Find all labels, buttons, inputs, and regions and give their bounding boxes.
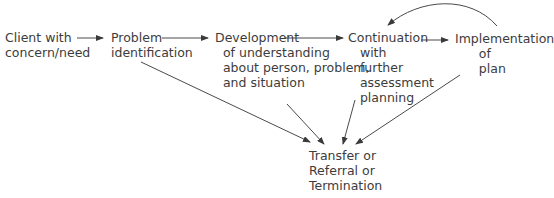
edge-implementation-continuation-loop	[388, 4, 497, 26]
node-continuation: Continuation with further assessment pla…	[348, 30, 434, 105]
edge-continuation-outcome	[343, 100, 355, 144]
edge-development-outcome	[287, 104, 324, 144]
node-transfer-referral-termination: Transfer or Referral or Termination	[309, 148, 382, 193]
node-implementation: Implementation of plan	[455, 31, 554, 76]
node-problem-identification: Problem identification	[111, 30, 193, 60]
node-client: Client with concern/need	[5, 30, 90, 60]
node-development-of-understanding: Development of understanding about perso…	[215, 30, 369, 90]
